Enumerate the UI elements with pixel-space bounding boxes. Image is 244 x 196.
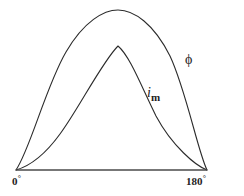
magnetizing-current-curve-label: im [147, 86, 160, 103]
axis-tick-end-value: 180 [186, 175, 203, 187]
magnetizing-current-curve [16, 46, 207, 170]
degree-symbol-start: ° [18, 174, 21, 183]
plot-area [0, 0, 244, 196]
axis-tick-label-end: 180° [186, 175, 206, 187]
current-subscript: m [151, 91, 160, 103]
figure-container: 0° 180° ϕ im [0, 0, 244, 196]
axis-tick-start-value: 0 [12, 175, 18, 187]
axis-tick-label-start: 0° [12, 175, 21, 187]
flux-curve [16, 10, 207, 170]
degree-symbol-end: ° [203, 174, 206, 183]
flux-curve-label: ϕ [185, 53, 192, 67]
